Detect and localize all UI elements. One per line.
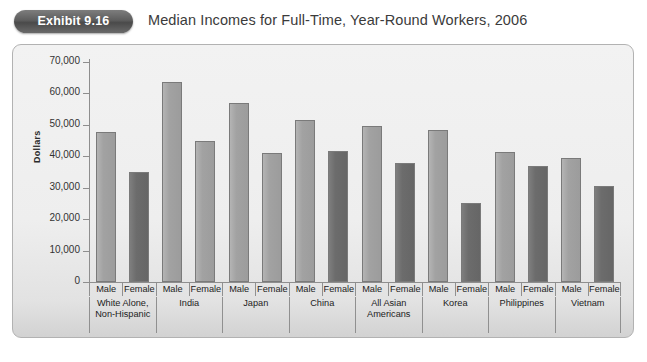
exhibit-header: Exhibit 9.16 Median Incomes for Full-Tim…	[0, 0, 647, 44]
x-axis-group-label: All AsianAmericans	[355, 297, 422, 333]
bar	[528, 166, 548, 282]
x-axis-sex-label: Male	[488, 283, 521, 296]
plot-area: 70,00060,00050,00040,00030,00020,00010,0…	[89, 62, 621, 282]
y-axis-tick-label: 10,000	[49, 244, 80, 255]
bar	[129, 172, 149, 282]
bar	[262, 153, 282, 282]
x-axis-sex-label: Male	[222, 283, 255, 296]
y-axis-tick-mark	[83, 93, 89, 94]
x-axis-sex-label: Female	[455, 283, 488, 296]
x-axis-sex-label: Female	[322, 283, 355, 296]
y-axis-tick-label: 50,000	[49, 118, 80, 129]
bar	[428, 130, 448, 282]
x-axis-group-label: Japan	[222, 297, 289, 333]
x-axis-group-label: China	[289, 297, 356, 333]
x-axis-sex-label: Female	[122, 283, 155, 296]
x-axis-sex-label: Female	[521, 283, 554, 296]
x-axis-group-label: India	[156, 297, 223, 333]
y-axis-tick-label: 40,000	[49, 149, 80, 160]
x-axis-group-label: Philippines	[488, 297, 555, 333]
y-axis-tick-mark	[83, 188, 89, 189]
bar	[96, 132, 116, 282]
y-axis-tick-mark	[83, 251, 89, 252]
x-axis-group-label: White Alone,Non-Hispanic	[89, 297, 156, 333]
bar	[295, 120, 315, 282]
page-title: Median Incomes for Full-Time, Year-Round…	[148, 12, 527, 28]
chart-panel: Dollars 70,00060,00050,00040,00030,00020…	[12, 44, 634, 338]
bar	[495, 152, 515, 282]
bar	[229, 103, 249, 282]
bar	[162, 82, 182, 282]
x-axis-group-label: Korea	[422, 297, 489, 333]
y-axis-tick-mark	[83, 219, 89, 220]
bar	[328, 151, 348, 282]
x-axis-sex-label: Female	[255, 283, 288, 296]
x-axis-label-band: MaleFemaleWhite Alone,Non-HispanicMaleFe…	[89, 283, 621, 327]
x-axis-sex-label: Male	[156, 283, 189, 296]
y-axis-tick-mark	[83, 62, 89, 63]
y-axis-tick-label: 60,000	[49, 86, 80, 97]
y-axis-line	[89, 59, 90, 285]
bar	[561, 158, 581, 282]
x-axis-sex-label: Male	[422, 283, 455, 296]
bar	[395, 163, 415, 282]
bar	[594, 186, 614, 282]
x-axis-group-label: Vietnam	[555, 297, 622, 333]
y-axis-tick-label: 30,000	[49, 181, 80, 192]
y-axis-tick-label: 0	[74, 275, 80, 286]
x-axis-sex-label: Male	[555, 283, 588, 296]
bar	[461, 203, 481, 282]
exhibit-badge: Exhibit 9.16	[14, 10, 133, 33]
y-axis-tick-label: 70,000	[49, 55, 80, 66]
x-axis-sex-label: Female	[388, 283, 421, 296]
x-axis-sex-label: Male	[355, 283, 388, 296]
x-axis-sex-label: Female	[189, 283, 222, 296]
x-axis-sex-label: Female	[588, 283, 621, 296]
y-axis-tick-mark	[83, 125, 89, 126]
y-axis-title: Dollars	[32, 130, 42, 163]
bar	[362, 126, 382, 282]
y-axis-tick-mark	[83, 156, 89, 157]
x-axis-sex-label: Male	[289, 283, 322, 296]
bar	[195, 141, 215, 282]
y-axis-tick-label: 20,000	[49, 212, 80, 223]
x-axis-sex-label: Male	[89, 283, 122, 296]
